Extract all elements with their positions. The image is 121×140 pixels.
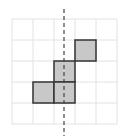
- shaded-square: [54, 61, 75, 82]
- shaded-square: [54, 82, 75, 103]
- symmetry-grid-diagram: [0, 0, 121, 140]
- shaded-square: [33, 82, 54, 103]
- shaded-square: [75, 40, 96, 61]
